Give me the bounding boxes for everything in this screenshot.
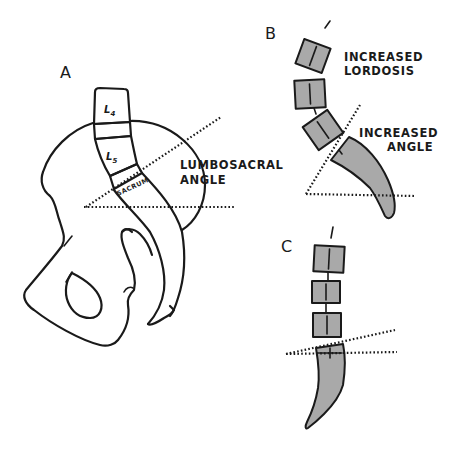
spine-axis-b-mid — [314, 108, 316, 114]
coccyx-tip — [148, 306, 174, 325]
increased-angle-label-line2: ANGLE — [387, 140, 433, 154]
panel-a-letter: A — [60, 63, 71, 82]
panel-c-letter: C — [281, 237, 292, 256]
spine-axis-top-b — [325, 21, 330, 28]
vertebra-c3 — [313, 313, 341, 337]
obturator-foramen — [66, 273, 102, 318]
vertebra-l4-label: L4 — [104, 104, 115, 118]
vertebra-b1 — [295, 39, 330, 73]
lumbosacral-angle-label-line1: LUMBOSACRAL — [180, 158, 284, 172]
foramen-notch — [66, 272, 72, 282]
increased-angle-label-line1: INCREASED — [359, 126, 438, 140]
lumbosacral-angle-diagram: A L4 L5 SACRUM LUMBOSACRAL ANGLE — [0, 0, 455, 453]
vertebra-c1 — [313, 245, 344, 273]
vertebra-b2 — [294, 79, 325, 109]
increased-lordosis-label-line2: LORDOSIS — [344, 64, 415, 78]
lumbosacral-angle-label-line2: ANGLE — [180, 173, 226, 187]
sacrum-body — [114, 190, 164, 324]
vertebra-c2 — [312, 281, 340, 303]
panel-c: C — [281, 227, 397, 429]
vertebra-l5-label: L5 — [106, 151, 117, 165]
spine-axis-top-c — [331, 227, 333, 238]
vertebra-l5 — [95, 136, 137, 176]
pelvis-outline — [24, 123, 134, 346]
vertebra-l4 — [94, 88, 130, 124]
vertebra-b3 — [303, 110, 344, 150]
sacrum-c — [306, 344, 345, 429]
ilium-notch — [64, 236, 72, 246]
sacrum-b — [331, 137, 395, 218]
panel-a: A L4 L5 SACRUM LUMBOSACRAL ANGLE — [24, 63, 283, 346]
panel-b-letter: B — [265, 24, 276, 43]
panel-b: B INCREASED LORDOSIS INCREASED ANGLE — [265, 21, 438, 218]
increased-lordosis-label-line1: INCREASED — [344, 50, 423, 64]
horizontal-reference-line-b — [306, 194, 415, 196]
